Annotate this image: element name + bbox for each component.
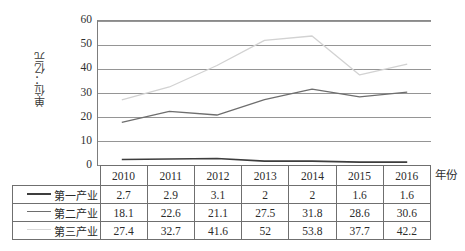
legend-line-swatch-icon [27, 211, 51, 212]
table-cell: 27.5 [242, 204, 289, 222]
plot-svg [98, 21, 431, 166]
table-cell: 31.8 [289, 204, 336, 222]
table-cell: 2 [289, 186, 336, 204]
table-header-year-2011: 2011 [147, 166, 194, 186]
y-tick-10: 10 [58, 135, 92, 147]
legend-cell-3: 第三产业 [13, 222, 101, 240]
legend-cell-1: 第一产业 [13, 186, 101, 204]
plot-area [97, 20, 431, 166]
legend-label-3: 第三产业 [54, 226, 97, 238]
table-cell: 32.7 [147, 222, 194, 240]
table-header-year-2016: 2016 [383, 166, 430, 186]
y-tick-50: 50 [58, 38, 92, 50]
table-row: 第一产业2.72.93.1221.61.6 [13, 186, 431, 204]
table-cell: 18.1 [100, 204, 147, 222]
table-cell: 2 [242, 186, 289, 204]
table-cell: 28.6 [336, 204, 383, 222]
table-cell: 37.7 [336, 222, 383, 240]
table-cell: 52 [242, 222, 289, 240]
table-corner-cell [13, 166, 101, 186]
legend-cell-2: 第二产业 [13, 204, 101, 222]
series-lines [122, 36, 407, 162]
table-cell: 1.6 [383, 186, 430, 204]
x-axis-title: 年份 [435, 166, 457, 184]
y-tick-30: 30 [58, 87, 92, 99]
table-cell: 22.6 [147, 204, 194, 222]
y-tick-20: 20 [58, 111, 92, 123]
legend-label-1: 第一产业 [54, 190, 97, 202]
table-cell: 3.1 [194, 186, 241, 204]
y-tick-40: 40 [58, 63, 92, 75]
table-row: 第二产业18.122.621.127.531.828.630.6 [13, 204, 431, 222]
legend-line-swatch-icon [27, 229, 51, 230]
table-header-row: 2010201120122013201420152016 [13, 166, 431, 186]
y-axis-tick-labels: 6050403020100 [58, 14, 92, 172]
table-cell: 1.6 [336, 186, 383, 204]
y-axis-title: 单位：亿元 [34, 52, 48, 107]
table-header-year-2015: 2015 [336, 166, 383, 186]
table-header-year-2014: 2014 [289, 166, 336, 186]
series-line-1 [122, 159, 407, 163]
legend-label-2: 第二产业 [54, 208, 97, 220]
y-tick-60: 60 [58, 14, 92, 26]
gridlines [98, 21, 431, 166]
table-header-year-2012: 2012 [194, 166, 241, 186]
table-cell: 2.7 [100, 186, 147, 204]
table-cell: 41.6 [194, 222, 241, 240]
data-table: 2010201120122013201420152016第一产业2.72.93.… [12, 165, 431, 240]
table-cell: 42.2 [383, 222, 430, 240]
legend-line-swatch-icon [27, 193, 51, 195]
table-cell: 2.9 [147, 186, 194, 204]
table-header-year-2010: 2010 [100, 166, 147, 186]
table-header-year-2013: 2013 [242, 166, 289, 186]
table-cell: 30.6 [383, 204, 430, 222]
table-cell: 53.8 [289, 222, 336, 240]
table-row: 第三产业27.432.741.65253.837.742.2 [13, 222, 431, 240]
table-cell: 27.4 [100, 222, 147, 240]
line-chart-with-data-table: 单位：亿元 6050403020100 20102011201220132014… [0, 0, 465, 251]
table-cell: 21.1 [194, 204, 241, 222]
